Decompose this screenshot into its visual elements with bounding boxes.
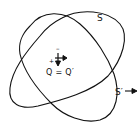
minus-sign: – xyxy=(56,46,60,53)
diagram-canvas: S S′ – + Q = Q′ xyxy=(0,0,140,127)
charge-label: Q = Q′ xyxy=(46,69,74,77)
surface-s-prime-label: S′ xyxy=(115,88,123,97)
plus-sign: + xyxy=(49,58,54,64)
right-arrow-icon xyxy=(125,89,137,94)
surfaces-drawing xyxy=(0,0,140,127)
surface-s-label: S xyxy=(97,14,103,23)
charge-symbol-icon xyxy=(55,53,67,66)
